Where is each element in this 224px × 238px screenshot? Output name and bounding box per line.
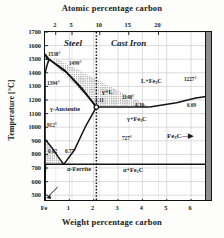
region-label-alpha-plus-cementite: α+Fe3C (123, 167, 143, 174)
plot-inner: Steel Cast Iron γ-Austenite α-Ferrite γ+… (45, 32, 211, 200)
y-tick-label: 900 (32, 136, 41, 143)
region-label-liquid-plus-cementite-tail: C (157, 77, 161, 84)
annotation-cementite-melting-temp: 1227° (184, 77, 196, 82)
cementite-right-bar (205, 32, 211, 200)
y-tick-label: 1700 (28, 28, 41, 35)
top-axis-title: Atomic percentage carbon (0, 4, 224, 13)
annotation-eutectoid-temp: 727° (122, 136, 132, 141)
y-tick-label: 1500 (28, 55, 41, 62)
y-tick-label: 700 (32, 164, 41, 171)
annotation-delta-gamma-temp: 1394° (47, 81, 59, 86)
y-tick-label: 1100 (29, 109, 41, 116)
x-tick-label: 3 (115, 204, 118, 211)
top-tick-label: 2 (53, 21, 56, 28)
acm-line (64, 107, 97, 164)
phase-diagram-plot: Steel Cast Iron γ-Austenite α-Ferrite γ+… (44, 31, 212, 201)
x-tick-label: Fe (41, 204, 48, 211)
y-tick-label: 600 (32, 177, 41, 184)
region-label-gamma-plus-cementite: γ+Fe3C (127, 116, 147, 123)
top-tick-label: 10 (96, 21, 102, 28)
annotation-austenite-max-carbon: 2.11 (95, 98, 104, 103)
region-label-alpha-plus-cementite-head: α+Fe (123, 166, 137, 173)
x-tick-label: 1 (67, 204, 70, 211)
annotation-peritectic-temp: 1499° (69, 61, 81, 66)
y-tick-label: 800 (32, 150, 41, 157)
annotation-cementite-carbon: 6.69 (187, 103, 196, 108)
region-label-cast-iron: Cast Iron (111, 39, 146, 48)
x-tick-label: 4 (140, 204, 143, 211)
y-tick-label: 1400 (28, 68, 41, 75)
region-label-liquid-plus-cementite-head: L+Fe (141, 77, 155, 84)
bottom-axis-title: Weight percentage carbon (0, 218, 224, 227)
annotation-eutectoid-carbon: 0.77 (65, 149, 74, 154)
top-tick-label: 20 (154, 21, 160, 28)
top-tick-label: 15 (125, 21, 131, 28)
y-tick-label: 1200 (28, 96, 41, 103)
annotation-eutectic-carbon: 4.30 (135, 103, 144, 108)
austenite-max-solubility-marker (94, 105, 98, 109)
y-tick-label: 1000 (28, 123, 41, 130)
region-label-gamma-plus-liquid: γ+L (102, 89, 113, 95)
figure-root: Atomic percentage carbon Weight percenta… (0, 0, 224, 238)
annotation-eutectic-temp: 1148° (122, 95, 134, 100)
annotation-ferrite-max-carbon: 0.02 (48, 149, 57, 154)
y-tick-label: 500 (32, 191, 41, 198)
region-label-liquid-plus-cementite: L+Fe3C (141, 78, 162, 85)
cementite-pointer-label: Fe3C—▶ (167, 133, 193, 140)
x-tick-label: 2 (91, 204, 94, 211)
region-label-alpha-plus-cementite-tail: C (139, 166, 143, 173)
annotation-melting-point-iron: 1538° (48, 52, 60, 57)
x-tick-label: 5 (164, 204, 167, 211)
solidus-delta (45, 54, 47, 59)
top-tick-label: 5 (69, 21, 72, 28)
region-label-gamma-plus-cementite-head: γ+Fe (127, 115, 140, 122)
cementite-pointer-tail: C—▶ (176, 132, 193, 139)
region-label-steel: Steel (64, 39, 82, 48)
region-label-gamma-austenite: γ-Austenite (50, 106, 80, 112)
annotation-a3-temp: 912° (47, 123, 57, 128)
ferrite-leader-line (47, 187, 58, 198)
region-label-gamma-plus-cementite-tail: C (142, 115, 146, 122)
y-tick-label: 1300 (28, 82, 41, 89)
region-label-alpha-ferrite: α-Ferrite (67, 166, 91, 172)
x-tick-label: 6 (189, 204, 192, 211)
y-axis-ticks: 1700160015001400130012001100100090080070… (0, 31, 41, 201)
y-tick-label: 1600 (28, 41, 41, 48)
